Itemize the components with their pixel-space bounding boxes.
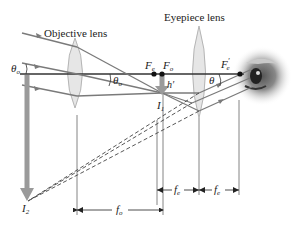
label-eyepiece-lens: Eyepiece lens [164, 11, 225, 23]
label-f-o-distance: fo [116, 203, 123, 217]
label-theta-o-right: θo [113, 74, 122, 88]
label-f-e-distance-1: fe [174, 183, 180, 197]
eyepiece-lens [193, 26, 206, 118]
label-f-e-distance-2: fe [214, 183, 220, 197]
optics-diagram: Objective lens Eyepiece lens θo θo θ Fe … [0, 0, 291, 227]
label-objective-lens: Objective lens [44, 27, 107, 39]
label-theta-o-left: θo [11, 62, 20, 76]
focal-point-fe-prime [237, 71, 242, 76]
label-i2: I2 [21, 202, 30, 216]
angle-arc-theta-o-right [109, 74, 111, 86]
incoming-rays [22, 33, 162, 96]
angle-arc-theta-o-left [26, 64, 27, 74]
label-h-prime: h′ [167, 79, 175, 90]
label-theta: θ [209, 74, 215, 86]
ray-direction-arrows [34, 33, 42, 91]
image-i2-arrow [20, 75, 34, 201]
label-f-e-point: Fe [144, 59, 155, 73]
label-f-o-point: Fo [162, 59, 174, 73]
focal-point-fo [159, 71, 164, 76]
label-f-e-prime-point: F′e [220, 57, 230, 72]
